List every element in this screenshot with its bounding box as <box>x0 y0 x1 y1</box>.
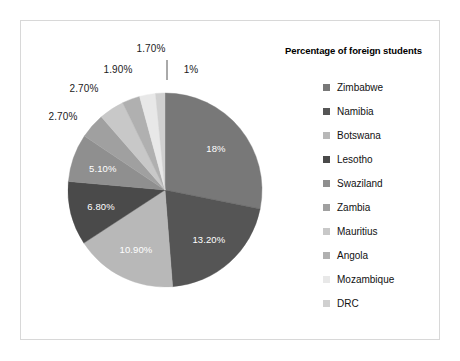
legend-item-label: Namibia <box>337 106 374 117</box>
pie-slice-label: 2.70% <box>70 83 99 94</box>
pie-slice-label: 1.70% <box>137 43 166 54</box>
legend-item-label: Zambia <box>337 202 370 213</box>
legend-item[interactable]: Mauritius <box>323 219 430 243</box>
legend-item[interactable]: Angola <box>323 243 430 267</box>
pie-slice-label: 10.90% <box>120 244 153 255</box>
legend-swatch-icon <box>323 300 330 307</box>
legend-swatch-icon <box>323 156 330 163</box>
pie-slice-label: 5.10% <box>89 163 116 174</box>
pie-slice-label: 18% <box>206 143 225 154</box>
legend-swatch-icon <box>323 228 330 235</box>
pie-slice-label: 6.80% <box>87 201 114 212</box>
legend-item-label: Angola <box>337 250 368 261</box>
pie-slice-label: 1.90% <box>104 64 133 75</box>
pie-slice-label: 2.70% <box>49 111 78 122</box>
legend-item[interactable]: Namibia <box>323 99 430 123</box>
legend-list: ZimbabweNamibiaBotswanaLesothoSwazilandZ… <box>323 75 430 315</box>
legend-title: Percentage of foreign students <box>285 45 430 56</box>
pie-slice-label: 1% <box>184 64 199 75</box>
legend-swatch-icon <box>323 84 330 91</box>
legend: Percentage of foreign students ZimbabweN… <box>285 45 430 315</box>
legend-item[interactable]: DRC <box>323 291 430 315</box>
legend-swatch-icon <box>323 180 330 187</box>
legend-item-label: Zimbabwe <box>337 82 383 93</box>
legend-item[interactable]: Zimbabwe <box>323 75 430 99</box>
legend-swatch-icon <box>323 276 330 283</box>
legend-item[interactable]: Zambia <box>323 195 430 219</box>
legend-item[interactable]: Swaziland <box>323 171 430 195</box>
legend-item-label: Mauritius <box>337 226 378 237</box>
legend-item-label: Swaziland <box>337 178 383 189</box>
legend-item-label: Lesotho <box>337 154 373 165</box>
legend-item-label: DRC <box>337 298 359 309</box>
legend-item[interactable]: Botswana <box>323 123 430 147</box>
legend-swatch-icon <box>323 252 330 259</box>
pie-slice-label: 13.20% <box>192 234 225 245</box>
legend-item[interactable]: Mozambique <box>323 267 430 291</box>
legend-swatch-icon <box>323 108 330 115</box>
legend-item[interactable]: Lesotho <box>323 147 430 171</box>
legend-swatch-icon <box>323 204 330 211</box>
legend-item-label: Mozambique <box>337 274 394 285</box>
legend-item-label: Botswana <box>337 130 381 141</box>
legend-swatch-icon <box>323 132 330 139</box>
pie-slice-group <box>68 93 262 287</box>
